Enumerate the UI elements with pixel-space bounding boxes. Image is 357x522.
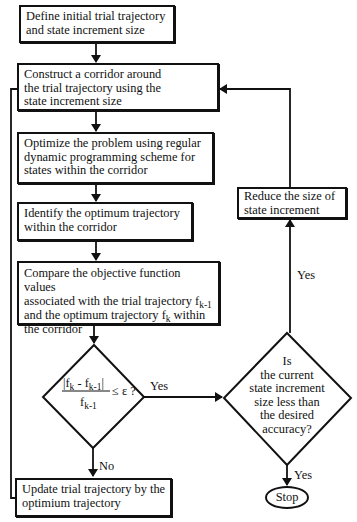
convergence-yes-label: Yes — [150, 379, 168, 393]
identify-line-1: Identify the optimum trajectory — [24, 207, 187, 221]
optimize-line-1: Optimize the problem using regular — [24, 137, 208, 151]
compare-line-4: the corridor — [24, 322, 214, 336]
num-part-c: | — [101, 376, 103, 390]
stop-terminal: Stop — [265, 486, 309, 509]
convergence-no-label: No — [99, 459, 114, 473]
num-sub-k-1: k-1 — [89, 382, 102, 392]
compare-line-2: associated with the trial trajectory fk-… — [24, 294, 214, 308]
accuracy-line-6: accuracy? — [237, 423, 337, 437]
convergence-denominator: fk-1 — [80, 395, 97, 410]
compare-line-2-text: associated with the trial trajectory f — [24, 294, 199, 308]
accuracy-line-2: the current — [237, 369, 337, 383]
update-line-1: Update trial trajectory by the — [22, 483, 166, 497]
construct-line-1: Construct a corridor around — [24, 68, 213, 82]
optimize-box: Optimize the problem using regular dynam… — [17, 132, 214, 184]
compare-line-1: Compare the objective function values — [24, 266, 214, 294]
num-part-a: |f — [63, 376, 70, 390]
construct-line-3: state increment size — [24, 95, 213, 109]
define-box: Define initial trial trajectory and stat… — [19, 5, 175, 43]
compare-line-3: and the optimum trajectory fk within — [24, 308, 214, 322]
accuracy-line-4: size less than — [237, 396, 337, 410]
convergence-rhs: ≤ ε ? — [112, 384, 136, 399]
construct-line-2: the trial trajectory using the — [24, 82, 213, 96]
accuracy-up-yes-label: Yes — [297, 268, 315, 282]
identify-line-2: within the corridor — [24, 221, 187, 235]
update-box: Update trial trajectory by the optimium … — [15, 478, 172, 517]
accuracy-line-5: the desired — [237, 409, 337, 423]
update-line-2: optimium trajectory — [22, 497, 166, 511]
optimize-line-3: states within the corridor — [24, 164, 208, 178]
define-line-2: and state increment size — [26, 24, 169, 38]
construct-box: Construct a corridor around the trial tr… — [17, 63, 219, 111]
optimize-line-2: dynamic programming scheme for — [24, 151, 208, 165]
arrow-reduce-to-construct — [220, 89, 290, 187]
compare-line-3-text: and the optimum trajectory f — [24, 308, 166, 322]
accuracy-line-3: state increment — [237, 382, 337, 396]
reduce-box: Reduce the size of state increment — [237, 187, 347, 219]
accuracy-text: Is the current state increment size less… — [237, 355, 337, 437]
compare-line-3-tail: within — [171, 308, 206, 322]
convergence-numerator: |fk - fk-1| — [63, 376, 104, 391]
den-sub-k-1: k-1 — [84, 401, 97, 411]
accuracy-line-1: Is — [237, 355, 337, 369]
define-line-1: Define initial trial trajectory — [26, 10, 169, 24]
reduce-line-1: Reduce the size of — [244, 190, 341, 204]
num-part-b: - f — [74, 376, 88, 390]
compare-box: Compare the objective function values as… — [17, 261, 220, 325]
reduce-line-2: state increment — [244, 204, 341, 218]
accuracy-down-yes-label: Yes — [294, 468, 312, 482]
identify-box: Identify the optimum trajectory within t… — [17, 202, 193, 241]
